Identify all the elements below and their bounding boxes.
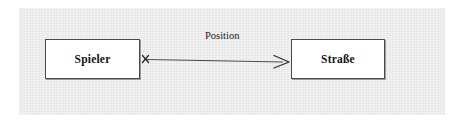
class-name-spieler: Spieler <box>75 53 111 65</box>
association-line <box>147 60 283 63</box>
class-name-strasse: Straße <box>321 53 355 65</box>
class-box-spieler[interactable]: Spieler <box>45 39 140 79</box>
class-box-strasse[interactable]: Straße <box>291 39 385 79</box>
association-label: Position <box>205 30 239 41</box>
diagram-root: Spieler Straße Position <box>0 0 453 123</box>
